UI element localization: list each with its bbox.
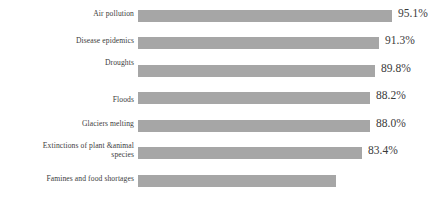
bar-track xyxy=(138,37,379,49)
table-row: Famines and food shortages xyxy=(0,165,444,192)
bar-category-label: Droughts xyxy=(0,58,134,67)
bar-category-label: Floods xyxy=(0,95,134,104)
table-row: Floods 88.2% xyxy=(0,82,444,109)
bar-track xyxy=(138,120,370,132)
bar-track xyxy=(138,65,375,77)
bar-fill xyxy=(138,92,370,104)
horizontal-bar-chart: Air pollution 95.1% Disease epidemics 91… xyxy=(0,0,444,199)
bar-track xyxy=(138,10,392,22)
bar-fill xyxy=(138,10,392,22)
bar-category-label: Famines and food shortages xyxy=(0,174,134,183)
bar-fill xyxy=(138,120,370,132)
table-row: Extinctions of plant &animal species 83.… xyxy=(0,137,444,164)
bar-track xyxy=(138,147,362,159)
bar-fill xyxy=(138,147,362,159)
bar-track xyxy=(138,175,336,187)
bar-category-label: Air pollution xyxy=(0,9,134,18)
bar-category-label: Extinctions of plant &animal species xyxy=(0,141,134,160)
bar-value-label: 91.3% xyxy=(385,33,415,47)
bar-track xyxy=(138,92,370,104)
bar-category-label: Glaciers melting xyxy=(0,119,134,128)
bar-fill xyxy=(138,65,375,77)
bar-value-label: 83.4% xyxy=(368,143,398,157)
bar-value-label: 88.2% xyxy=(376,88,406,102)
bar-category-label: Disease epidemics xyxy=(0,36,134,45)
table-row: Glaciers melting 88.0% xyxy=(0,110,444,137)
bar-value-label: 89.8% xyxy=(381,61,411,75)
table-row: Disease epidemics 91.3% xyxy=(0,27,444,54)
bar-value-label: 88.0% xyxy=(376,116,406,130)
bar-fill xyxy=(138,37,379,49)
bar-value-label: 95.1% xyxy=(398,6,428,20)
table-row: Droughts 89.8% xyxy=(0,55,444,82)
table-row: Air pollution 95.1% xyxy=(0,0,444,27)
bar-fill xyxy=(138,175,336,187)
